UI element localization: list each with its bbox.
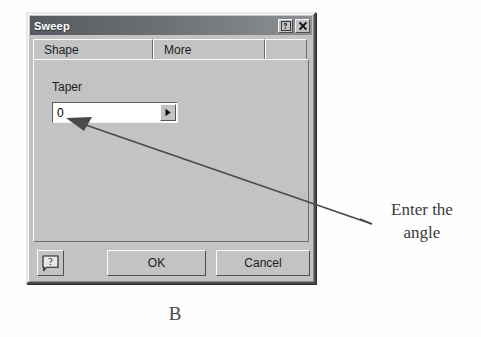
question-mark-arrow-icon xyxy=(281,21,291,31)
cancel-button[interactable]: Cancel xyxy=(216,250,310,276)
whats-this-help-icon-button[interactable] xyxy=(278,19,293,33)
taper-combo[interactable]: 0 xyxy=(52,102,178,123)
tab-shape-label: Shape xyxy=(44,43,79,57)
annotation-line-1: Enter the xyxy=(366,199,478,222)
ok-button[interactable]: OK xyxy=(107,250,206,276)
triangle-right-icon xyxy=(164,108,172,117)
close-icon xyxy=(298,21,308,31)
tab-more[interactable]: More xyxy=(153,39,265,60)
svg-text:?: ? xyxy=(48,256,53,267)
dialog-tabstrip: Shape More xyxy=(33,38,309,60)
taper-input[interactable]: 0 xyxy=(53,106,160,120)
figure-panel-b: Sweep Shape More xyxy=(0,0,481,337)
annotation-label: Enter the angle xyxy=(366,199,478,245)
dialog-titlebar[interactable]: Sweep xyxy=(30,16,312,35)
dialog-title: Sweep xyxy=(34,20,276,32)
taper-label: Taper xyxy=(52,80,82,94)
figure-caption: B xyxy=(160,303,190,325)
sweep-dialog: Sweep Shape More xyxy=(26,12,316,284)
cancel-button-label: Cancel xyxy=(244,256,281,270)
close-icon-button[interactable] xyxy=(295,19,310,33)
help-button[interactable]: ? xyxy=(37,250,64,276)
tab-unlabeled[interactable] xyxy=(265,39,307,60)
tab-more-label: More xyxy=(164,43,191,57)
tab-page-more: Taper 0 xyxy=(33,59,309,242)
ok-button-label: OK xyxy=(148,256,165,270)
help-balloon-icon: ? xyxy=(42,255,59,272)
dialog-button-row: ? OK Cancel xyxy=(28,248,314,278)
taper-dropdown-button[interactable] xyxy=(160,104,176,121)
tab-shape[interactable]: Shape xyxy=(33,39,153,60)
annotation-line-2: angle xyxy=(366,222,478,245)
